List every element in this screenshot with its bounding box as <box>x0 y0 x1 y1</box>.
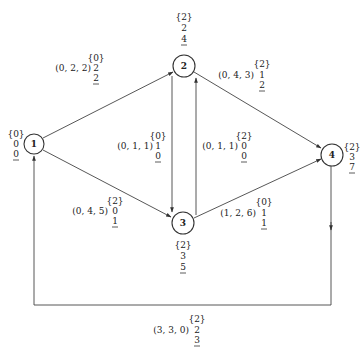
svg-text:(3, 3, 0): (3, 3, 0) <box>153 325 189 335</box>
svg-text:2: 2 <box>181 61 187 71</box>
edge-2-4 <box>194 72 321 148</box>
svg-text:0: 0 <box>241 151 247 161</box>
edge-1-2 <box>43 72 173 138</box>
node-4: 4 <box>321 144 343 166</box>
svg-text:(0, 2, 2): (0, 2, 2) <box>55 63 91 73</box>
svg-text:{2}: {2} <box>343 142 360 152</box>
svg-text:(0, 4, 5): (0, 4, 5) <box>72 206 108 216</box>
svg-text:1: 1 <box>155 141 161 151</box>
edge-1-2-label: (0, 2, 2) {0} 2 2 <box>55 53 104 84</box>
svg-text:{0}: {0} <box>149 131 166 141</box>
svg-text:1: 1 <box>261 218 267 228</box>
node-1: 1 <box>24 134 44 154</box>
edge-1-3-label: (0, 4, 5) {2} 0 1 <box>72 196 123 227</box>
svg-text:{2}: {2} <box>174 240 191 250</box>
svg-text:2: 2 <box>259 80 265 90</box>
svg-text:{2}: {2} <box>253 59 270 69</box>
svg-text:(1, 2, 6): (1, 2, 6) <box>220 208 256 218</box>
svg-text:3: 3 <box>349 152 355 162</box>
svg-text:{0}: {0} <box>87 53 104 63</box>
svg-text:1: 1 <box>112 216 118 226</box>
svg-text:{2}: {2} <box>175 12 192 22</box>
edge-4-1-label: (3, 3, 0) {2} 2 3 <box>153 314 205 346</box>
svg-text:(0, 4, 3): (0, 4, 3) <box>218 70 254 80</box>
svg-text:{2}: {2} <box>235 131 252 141</box>
edge-3-2-label: (0, 1, 1) {2} 0 0 <box>202 131 252 162</box>
node-2-label: {2} 2 4 <box>175 12 192 45</box>
svg-text:4: 4 <box>181 34 187 44</box>
svg-text:0: 0 <box>112 206 118 216</box>
svg-text:0: 0 <box>13 149 19 159</box>
svg-text:0: 0 <box>241 141 247 151</box>
svg-text:{2}: {2} <box>188 314 205 324</box>
svg-text:2: 2 <box>93 73 99 83</box>
svg-text:1: 1 <box>31 139 37 149</box>
svg-text:{0}: {0} <box>255 197 272 207</box>
svg-text:5: 5 <box>180 262 186 272</box>
svg-text:{2}: {2} <box>106 196 123 206</box>
edge-2-4-label: (0, 4, 3) {2} 1 2 <box>218 59 270 91</box>
node-2: 2 <box>173 55 195 77</box>
svg-text:1: 1 <box>261 208 267 218</box>
svg-text:3: 3 <box>180 218 186 228</box>
svg-text:1: 1 <box>259 70 265 80</box>
edge-2-3-label: (0, 1, 1) {0} 1 0 <box>117 131 166 162</box>
node-3-label: {2} 3 5 <box>174 240 191 273</box>
svg-text:(0, 1, 1): (0, 1, 1) <box>202 141 238 151</box>
svg-text:{0}: {0} <box>7 129 24 139</box>
svg-text:(0, 1, 1): (0, 1, 1) <box>117 141 153 151</box>
svg-text:0: 0 <box>155 151 161 161</box>
edge-3-4 <box>194 159 321 218</box>
svg-text:3: 3 <box>194 335 200 345</box>
svg-text:2: 2 <box>194 325 200 335</box>
svg-text:2: 2 <box>93 63 99 73</box>
svg-text:3: 3 <box>180 251 186 261</box>
node-1-label: {0} 0 0 <box>7 129 24 160</box>
svg-text:4: 4 <box>329 150 335 160</box>
svg-text:0: 0 <box>13 139 19 149</box>
network-flow-diagram: 1 2 3 4 {0} 0 0 {2} 2 4 {2} 3 5 {2} 3 7 … <box>0 0 363 356</box>
svg-text:2: 2 <box>181 23 187 33</box>
node-4-label: {2} 3 7 <box>343 142 360 173</box>
svg-text:7: 7 <box>349 162 355 172</box>
node-3: 3 <box>172 212 194 234</box>
